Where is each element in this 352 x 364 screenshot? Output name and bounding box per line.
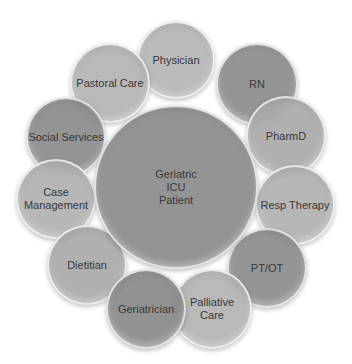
node-label: PharmD: [266, 130, 306, 143]
node-label: RN: [249, 78, 265, 91]
node-label: PT/OT: [251, 262, 283, 275]
center-node-patient: Geriatric ICU Patient: [94, 105, 258, 269]
node-pharmd: PharmD: [246, 96, 326, 176]
node-geriatrician: Geriatrician: [106, 269, 186, 349]
node-label: Dietitian: [67, 259, 107, 272]
node-label: Palliative Care: [190, 296, 234, 322]
node-label: Physician: [152, 54, 199, 67]
node-label: Case Management: [24, 186, 88, 212]
node-label: Resp Therapy: [261, 199, 330, 212]
node-label: Geriatrician: [118, 303, 174, 316]
node-label: Pastoral Care: [76, 77, 143, 90]
center-label: Geriatric ICU Patient: [155, 168, 197, 207]
care-team-diagram: Physician Pastoral Care RN PharmD Social…: [0, 0, 352, 364]
node-label: Social Services: [28, 131, 103, 144]
